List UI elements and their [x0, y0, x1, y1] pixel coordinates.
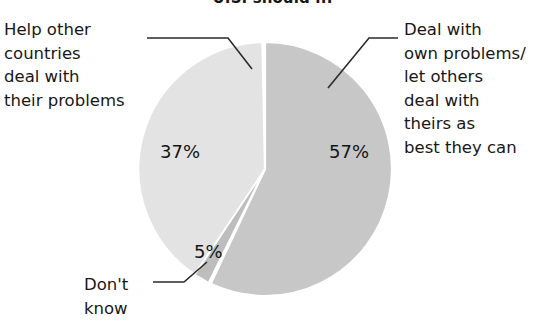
callout-label-dont-know: Don't know: [84, 273, 204, 320]
callout-label-help-other-countries: Help other countries deal with their pro…: [4, 18, 169, 112]
slice-value-label-5: 5%: [194, 243, 223, 261]
callout-label-deal-with-own-problems: Deal with own problems/ let others deal …: [404, 18, 545, 159]
slice-value-label-57: 57%: [329, 143, 369, 161]
pie-chart-figure: U.S. should ... Help other countries dea…: [0, 0, 545, 329]
slice-value-label-37: 37%: [160, 143, 200, 161]
